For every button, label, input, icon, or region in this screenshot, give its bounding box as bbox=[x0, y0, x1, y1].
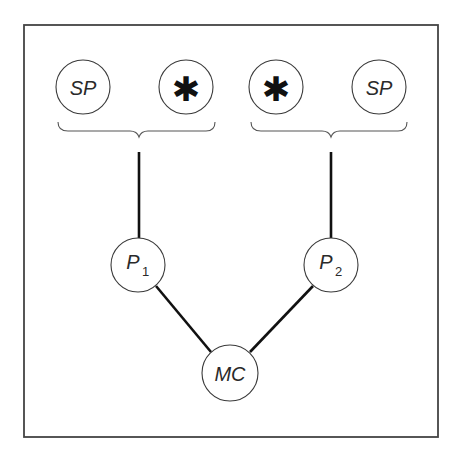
asterisk-icon: ✱ bbox=[262, 69, 291, 109]
node-star-left: ✱ bbox=[159, 60, 213, 114]
right-group-brace bbox=[251, 122, 407, 137]
edge-p2-to-mc bbox=[250, 286, 313, 352]
node-mc: MC bbox=[202, 345, 258, 401]
node-p2: P 2 bbox=[304, 238, 358, 292]
node-label: P bbox=[319, 251, 333, 273]
node-label: SP bbox=[366, 77, 393, 99]
node-sp-left: SP bbox=[56, 60, 110, 114]
node-sp-right: SP bbox=[352, 60, 406, 114]
edge-p1-to-mc bbox=[156, 286, 211, 352]
left-group-brace bbox=[58, 122, 215, 137]
node-subscript: 2 bbox=[335, 264, 342, 279]
pedigree-diagram: SP ✱ ✱ SP P 1 P 2 MC bbox=[0, 0, 456, 458]
node-label: SP bbox=[70, 77, 97, 99]
node-subscript: 1 bbox=[142, 264, 149, 279]
node-p1: P 1 bbox=[111, 238, 165, 292]
node-label: MC bbox=[214, 363, 246, 385]
asterisk-icon: ✱ bbox=[172, 69, 201, 109]
node-star-right: ✱ bbox=[249, 60, 303, 114]
node-label: P bbox=[126, 251, 140, 273]
